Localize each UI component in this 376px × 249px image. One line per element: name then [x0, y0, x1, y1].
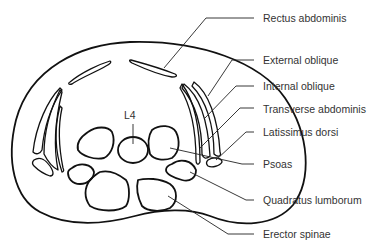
leader-erector-spinae [168, 196, 254, 234]
label-latissimus-dorsi: Latissimus dorsi [263, 127, 338, 138]
label-quadratus-lumborum: Quadratus lumborum [263, 195, 362, 206]
cross-section-diagram [0, 0, 376, 249]
label-psoas: Psoas [263, 159, 292, 170]
erector-spinae-left [86, 171, 130, 210]
label-internal-oblique: Internal oblique [263, 81, 335, 92]
rectus-abdominis-right [130, 60, 177, 77]
label-external-oblique: External oblique [263, 55, 338, 66]
label-rectus-abdominis: Rectus abdominis [263, 13, 346, 24]
label-transverse-abdominis: Transverse abdominis [263, 104, 366, 115]
leader-psoas [170, 148, 254, 164]
left-latissimus-dorsi [33, 158, 54, 176]
leader-quadratus-lumborum [190, 172, 254, 200]
rectus-abdominis-left [69, 61, 111, 84]
psoas-right [149, 126, 179, 160]
leader-latissimus-dorsi [216, 132, 254, 160]
leader-rectus-abdominis [164, 18, 254, 68]
label-erector-spinae: Erector spinae [263, 229, 331, 240]
psoas-left [78, 128, 114, 159]
leader-internal-oblique [205, 86, 254, 118]
quadratus-lumborum-right [166, 161, 196, 181]
erector-spinae-right [137, 179, 176, 211]
l4-label: L4 [124, 110, 136, 121]
